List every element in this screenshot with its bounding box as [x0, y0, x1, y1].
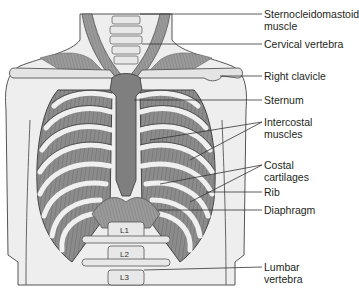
- label-line1: Sternocleidomastoid: [264, 8, 359, 20]
- label-line2: muscles: [264, 128, 312, 140]
- label-line2: vertebra: [264, 273, 303, 285]
- label-right-clavicle: Right clavicle: [264, 70, 326, 82]
- label-line2: cartilages: [264, 171, 309, 183]
- vertebra-label-l1: L1: [120, 226, 129, 235]
- label-line1: Intercostal: [264, 116, 312, 128]
- label-lumbar-vertebra: Lumbar vertebra: [264, 261, 303, 285]
- label-line1: Cervical vertebra: [264, 38, 343, 50]
- label-sternocleidomastoid: Sternocleidomastoid muscle: [264, 8, 359, 32]
- label-line1: Diaphragm: [264, 204, 315, 216]
- vertebra-label-l2: L2: [120, 250, 129, 259]
- vertebra-label-l3: L3: [120, 273, 129, 282]
- label-sternum: Sternum: [264, 94, 304, 106]
- label-intercostal-muscles: Intercostal muscles: [264, 116, 312, 140]
- label-line1: Sternum: [264, 94, 304, 106]
- cervical-vertebrae: [110, 16, 142, 64]
- label-cervical-vertebra: Cervical vertebra: [264, 38, 343, 50]
- label-line1: Rib: [264, 186, 280, 198]
- label-line1: Costal: [264, 159, 309, 171]
- label-diaphragm: Diaphragm: [264, 204, 315, 216]
- label-line2: muscle: [264, 20, 359, 32]
- label-line1: Right clavicle: [264, 70, 326, 82]
- label-rib: Rib: [264, 186, 280, 198]
- label-line1: Lumbar: [264, 261, 303, 273]
- label-costal-cartilages: Costal cartilages: [264, 159, 309, 183]
